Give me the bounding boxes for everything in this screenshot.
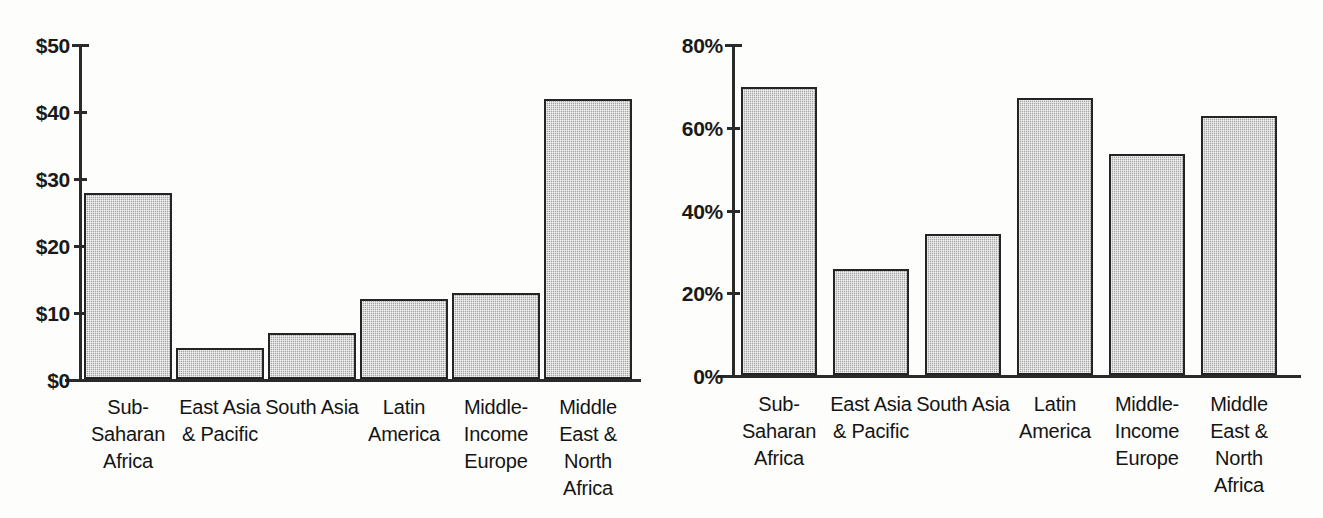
x-axis-category-label: LatinAmerica	[1006, 391, 1104, 445]
y-axis-tick	[74, 178, 87, 181]
category-label-line: Sub-	[730, 391, 828, 418]
x-axis-category-label: South Asia	[914, 391, 1012, 418]
category-label-line: Africa	[1190, 472, 1288, 499]
chart-panel-left: $0$10$20$30$40$50Sub-SaharanAfricaEast A…	[0, 0, 661, 518]
y-axis-tick-label: $0	[0, 369, 70, 393]
bar	[925, 234, 1001, 375]
bar	[452, 293, 540, 379]
category-label-line: Latin	[1006, 391, 1104, 418]
category-label-line: Saharan	[80, 421, 176, 448]
category-label-line: North	[1190, 445, 1288, 472]
x-axis-category-label: Middle-IncomeEurope	[1098, 391, 1196, 472]
y-axis-tick	[727, 292, 740, 295]
y-axis-tick-label: 60%	[661, 117, 723, 141]
category-label-line: Africa	[730, 445, 828, 472]
x-axis-baseline	[65, 379, 641, 382]
y-axis-tick-label: $50	[0, 34, 70, 58]
category-label-line: & Pacific	[822, 418, 920, 445]
category-label-line: Europe	[448, 448, 544, 475]
category-label-line: East &	[1190, 418, 1288, 445]
y-axis-tick-label: 20%	[661, 282, 723, 306]
category-label-line: America	[1006, 418, 1104, 445]
bar	[360, 299, 448, 379]
category-label-line: South Asia	[914, 391, 1012, 418]
category-label-line: Sub-	[80, 394, 176, 421]
x-axis-baseline	[718, 375, 1301, 378]
bar	[268, 333, 356, 379]
y-axis-tick-label: 80%	[661, 34, 723, 58]
plot-area-left: $0$10$20$30$40$50Sub-SaharanAfricaEast A…	[0, 0, 661, 518]
y-axis-tick-label: $10	[0, 302, 70, 326]
bar	[741, 87, 817, 375]
plot-area-right: 0%20%40%60%80%Sub-SaharanAfricaEast Asia…	[661, 0, 1323, 518]
category-label-line: Africa	[540, 475, 636, 502]
category-label-line: Latin	[356, 394, 452, 421]
x-axis-category-label: Sub-SaharanAfrica	[80, 394, 176, 475]
category-label-line: East Asia	[822, 391, 920, 418]
bar	[176, 348, 264, 379]
category-label-line: Middle	[1190, 391, 1288, 418]
chart-panel-right: 0%20%40%60%80%Sub-SaharanAfricaEast Asia…	[661, 0, 1323, 518]
category-label-line: Income	[1098, 418, 1196, 445]
y-axis-tick-label: $40	[0, 101, 70, 125]
x-axis-category-label: East Asia& Pacific	[172, 394, 268, 448]
category-label-line: East Asia	[172, 394, 268, 421]
y-axis-tick	[725, 44, 742, 47]
bar	[544, 99, 632, 379]
bar	[1201, 116, 1277, 375]
y-axis-line	[79, 44, 82, 382]
y-axis-tick-label: $30	[0, 168, 70, 192]
category-label-line: Saharan	[730, 418, 828, 445]
category-label-line: Income	[448, 421, 544, 448]
x-axis-category-label: South Asia	[264, 394, 360, 421]
y-axis-tick	[727, 210, 740, 213]
x-axis-category-label: MiddleEast &NorthAfrica	[540, 394, 636, 502]
category-label-line: America	[356, 421, 452, 448]
y-axis-tick-label: 0%	[661, 365, 723, 389]
y-axis-tick-label: $20	[0, 235, 70, 259]
y-axis-tick-label: 40%	[661, 200, 723, 224]
y-axis-tick	[74, 111, 87, 114]
bar	[833, 269, 909, 375]
y-axis-tick	[72, 44, 89, 47]
bar	[1109, 154, 1185, 375]
category-label-line: North	[540, 448, 636, 475]
category-label-line: Middle-	[448, 394, 544, 421]
category-label-line: Europe	[1098, 445, 1196, 472]
category-label-line: Middle	[540, 394, 636, 421]
category-label-line: & Pacific	[172, 421, 268, 448]
x-axis-category-label: Sub-SaharanAfrica	[730, 391, 828, 472]
bar	[84, 193, 172, 379]
bar	[1017, 98, 1093, 375]
category-label-line: South Asia	[264, 394, 360, 421]
x-axis-category-label: Middle-IncomeEurope	[448, 394, 544, 475]
x-axis-category-label: East Asia& Pacific	[822, 391, 920, 445]
category-label-line: Africa	[80, 448, 176, 475]
x-axis-category-label: MiddleEast &NorthAfrica	[1190, 391, 1288, 499]
y-axis-tick	[727, 127, 740, 130]
dual-bar-chart-figure: $0$10$20$30$40$50Sub-SaharanAfricaEast A…	[0, 0, 1323, 518]
x-axis-category-label: LatinAmerica	[356, 394, 452, 448]
category-label-line: Middle-	[1098, 391, 1196, 418]
category-label-line: East &	[540, 421, 636, 448]
